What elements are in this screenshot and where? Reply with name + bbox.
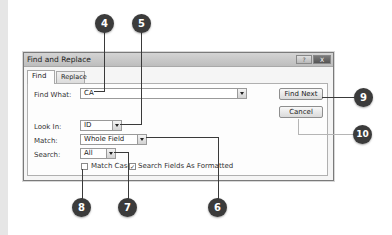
callout-6: 6 — [208, 198, 227, 217]
leader-line-5 — [141, 32, 142, 125]
leader-line-7 — [128, 152, 129, 199]
look-in-label: Look In: — [34, 123, 61, 131]
search-label: Search: — [34, 151, 60, 159]
chevron-down-icon[interactable] — [237, 89, 246, 98]
leader-line-7 — [114, 152, 129, 153]
find-what-field[interactable]: CA — [80, 88, 247, 99]
dialog-title: Find and Replace — [27, 55, 91, 64]
callout-8: 8 — [72, 198, 91, 217]
leader-line-8 — [82, 169, 83, 199]
callout-9: 9 — [354, 88, 373, 107]
look-in-select[interactable]: ID — [80, 120, 122, 131]
close-button[interactable]: X — [313, 55, 331, 64]
leader-line-4 — [104, 32, 105, 92]
check-icon: ✓ — [130, 163, 135, 170]
cancel-button[interactable]: Cancel — [279, 106, 323, 118]
title-bar: Find and Replace ? X — [24, 53, 333, 67]
leader-line-10 — [298, 134, 354, 135]
tab-replace-label: Replace — [61, 73, 87, 81]
find-next-button[interactable]: Find Next — [279, 88, 323, 100]
callout-4: 4 — [95, 14, 114, 33]
chevron-down-icon[interactable] — [137, 135, 146, 144]
match-label: Match: — [34, 137, 58, 145]
find-what-value: CA — [84, 89, 94, 97]
match-select[interactable]: Whole Field — [80, 134, 147, 145]
cancel-label: Cancel — [289, 108, 313, 116]
help-button[interactable]: ? — [296, 55, 312, 64]
tab-find-label: Find — [32, 72, 46, 80]
search-select[interactable]: All — [80, 148, 116, 159]
find-tab-panel: Find What: CA Find Next Cancel Look In: … — [27, 83, 328, 176]
callout-5: 5 — [132, 14, 151, 33]
callout-10: 10 — [353, 125, 372, 144]
chevron-down-icon[interactable] — [112, 121, 121, 130]
close-icon: X — [320, 56, 324, 63]
search-formatted-checkbox[interactable]: ✓ — [129, 163, 136, 170]
match-case-label: Match Case — [91, 162, 132, 170]
look-in-value: ID — [84, 121, 91, 129]
search-value: All — [84, 149, 93, 157]
leader-line-10 — [298, 119, 299, 135]
background-strip — [0, 0, 8, 235]
chevron-down-icon[interactable] — [106, 149, 115, 158]
leader-line-6 — [218, 137, 219, 199]
tab-find[interactable]: Find — [27, 70, 55, 84]
find-what-label: Find What: — [34, 91, 71, 99]
callout-7: 7 — [118, 198, 137, 217]
leader-line-6 — [146, 137, 219, 138]
tab-replace[interactable]: Replace — [56, 71, 85, 83]
leader-line-9 — [322, 97, 355, 98]
match-value: Whole Field — [84, 135, 124, 143]
find-replace-dialog: Find and Replace ? X Find Replace Find W… — [23, 52, 334, 181]
find-next-label: Find Next — [285, 90, 318, 98]
help-icon: ? — [302, 56, 305, 63]
leader-line-5 — [120, 124, 142, 125]
